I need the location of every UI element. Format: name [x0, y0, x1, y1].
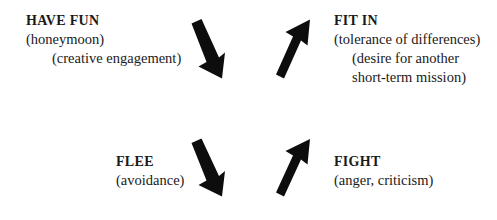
- quadrant-flee-line-1: (avoidance): [116, 171, 184, 190]
- culture-shock-diagram: HAVE FUN (honeymoon) (creative engagemen…: [0, 0, 497, 220]
- arrow-down-right-icon: [188, 17, 226, 81]
- quadrant-have-fun-line-2: (creative engagement): [26, 49, 181, 68]
- quadrant-have-fun-line-1: (honeymoon): [26, 30, 181, 49]
- arrow-down-right-icon: [188, 137, 226, 199]
- quadrant-fight-line-1: (anger, criticism): [334, 171, 433, 190]
- quadrant-fit-in-line-3: short-term mission): [334, 68, 480, 87]
- quadrant-fit-in-heading: FIT IN: [334, 11, 480, 30]
- quadrant-fit-in: FIT IN (tolerance of differences) (desir…: [334, 11, 480, 87]
- arrow-up-right-icon: [276, 137, 314, 199]
- quadrant-fight: FIGHT (anger, criticism): [334, 152, 433, 190]
- quadrant-have-fun-heading: HAVE FUN: [26, 11, 181, 30]
- quadrant-fit-in-line-2: (desire for another: [334, 49, 480, 68]
- quadrant-have-fun: HAVE FUN (honeymoon) (creative engagemen…: [26, 11, 181, 68]
- quadrant-fight-heading: FIGHT: [334, 152, 433, 171]
- arrow-up-right-icon: [276, 17, 314, 81]
- quadrant-fit-in-line-1: (tolerance of differences): [334, 30, 480, 49]
- quadrant-flee: FLEE (avoidance): [116, 152, 184, 190]
- quadrant-flee-heading: FLEE: [116, 152, 184, 171]
